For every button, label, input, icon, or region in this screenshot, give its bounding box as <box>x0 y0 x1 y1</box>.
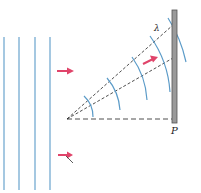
plane-wavefronts <box>4 37 50 190</box>
incident-arrow-upper <box>57 68 74 75</box>
incident-arrow-lower <box>58 152 73 164</box>
wave-diagram <box>0 0 201 193</box>
spherical-wavefronts <box>84 18 186 117</box>
propagation-arrow <box>143 56 158 65</box>
screen-label: P <box>171 126 178 136</box>
screen-P <box>172 10 177 123</box>
wavelength-label: λ <box>154 24 160 33</box>
